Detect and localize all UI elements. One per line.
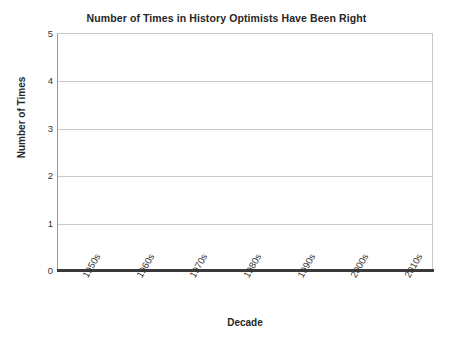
y-tick-label-2: 2 [31, 170, 53, 181]
y-tick-label-5: 5 [31, 28, 53, 39]
y-tick-label-0: 0 [31, 265, 53, 276]
x-tick-cell-4: 1990s [272, 272, 325, 316]
chart-container: Number of Times in History Optimists Hav… [0, 0, 453, 342]
y-axis-title: Number of Times [16, 63, 27, 173]
x-axis-title: Decade [57, 317, 433, 328]
y-tick-label-4: 4 [31, 75, 53, 86]
x-tick-cell-5: 2000s [326, 272, 379, 316]
x-tick-cell-0: 1950s [57, 272, 110, 316]
chart-title: Number of Times in History Optimists Hav… [0, 12, 453, 24]
y-tick-label-3: 3 [31, 122, 53, 133]
plot-area [57, 33, 433, 270]
x-axis-tick-labels: 1950s 1960s 1970s 1980s 1990s 2000s 2010… [57, 272, 433, 316]
bars-layer [58, 34, 432, 270]
x-tick-cell-6: 2010s [380, 272, 433, 316]
x-tick-cell-1: 1960s [111, 272, 164, 316]
y-axis-tick-labels: 0 1 2 3 4 5 [29, 33, 53, 270]
x-tick-cell-2: 1970s [165, 272, 218, 316]
y-tick-label-1: 1 [31, 217, 53, 228]
x-tick-cell-3: 1980s [218, 272, 271, 316]
